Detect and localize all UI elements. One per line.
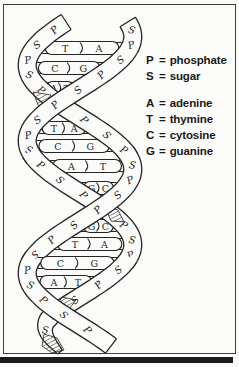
legend-entry-thymine: T=thymine — [146, 113, 227, 129]
base-letter-right: A — [100, 239, 108, 250]
base-letter-left: A — [50, 277, 58, 288]
legend-symbol: S — [146, 70, 155, 82]
equals-sign: = — [159, 145, 166, 157]
legend-symbol: T — [146, 113, 155, 125]
legend-symbol: C — [146, 129, 155, 141]
base-letter-left: T — [51, 123, 58, 134]
textbook-figure: TACGATTACGPSPSPSPSPSPSPSPSPSATGCGCTAPSPS… — [0, 0, 239, 367]
base-letter-right: T — [100, 161, 107, 172]
page-edge-shadow — [0, 357, 233, 363]
base-letter-left: C — [57, 258, 64, 269]
equals-sign: = — [159, 97, 166, 109]
legend-symbol: G — [146, 145, 155, 157]
base-letter-left: T — [62, 43, 69, 54]
base-pair-rung: TA — [42, 42, 122, 55]
legend-symbol: A — [146, 97, 155, 109]
equals-sign: = — [159, 54, 166, 66]
base-letter-left: A — [67, 161, 75, 172]
base-letter-right: G — [90, 258, 98, 269]
legend-group-bases: A=adenine T=thymine C=cytosine G=guanine — [146, 97, 227, 161]
base-letter-left: T — [72, 239, 79, 250]
legend-entry-phosphate: P=phosphate — [146, 54, 227, 70]
legend-term: guanine — [170, 145, 213, 157]
equals-sign: = — [159, 129, 166, 141]
equals-sign: = — [159, 113, 166, 125]
base-letter-right: G — [80, 63, 88, 74]
base-letter-left: C — [51, 63, 58, 74]
base-pair-rung: CG — [38, 257, 117, 270]
legend-entry-cytosine: C=cytosine — [146, 129, 227, 145]
base-letter-right: G — [87, 141, 95, 152]
legend-term: adenine — [170, 97, 213, 109]
legend-term: cytosine — [170, 129, 216, 141]
legend-symbol: P — [146, 54, 155, 66]
legend: P=phosphate S=sugar A=adenine T=thymine … — [146, 54, 227, 161]
base-letter-right: A — [94, 43, 102, 54]
equals-sign: = — [159, 70, 166, 82]
base-letter-left: C — [54, 141, 61, 152]
legend-entry-adenine: A=adenine — [146, 97, 227, 113]
hatch-shading — [42, 334, 64, 353]
legend-term: thymine — [170, 113, 213, 125]
legend-entry-guanine: G=guanine — [146, 145, 227, 161]
backbone-label: P — [22, 264, 31, 276]
legend-term: phosphate — [170, 54, 227, 66]
legend-entry-sugar: S=sugar — [146, 70, 227, 86]
legend-term: sugar — [170, 70, 201, 82]
legend-group-backbone: P=phosphate S=sugar — [146, 54, 227, 86]
